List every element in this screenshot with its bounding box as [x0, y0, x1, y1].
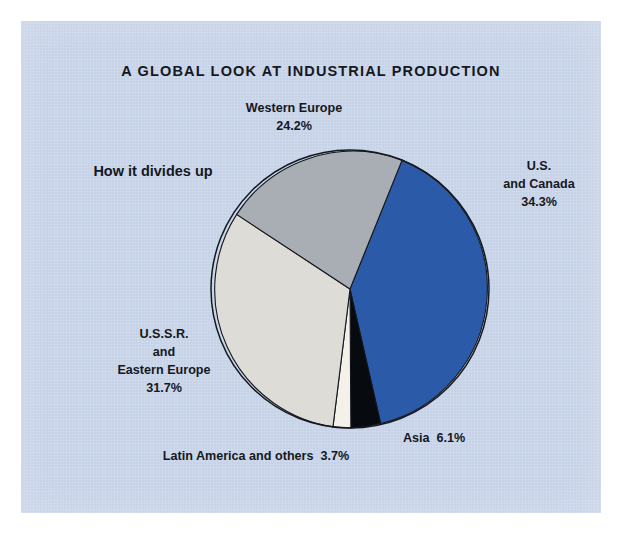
- slice-label-latin-america-and-others: Latin America and others 3.7%: [131, 448, 381, 466]
- figure-canvas: A GLOBAL LOOK AT INDUSTRIAL PRODUCTION H…: [0, 0, 624, 550]
- slice-label-ussr-and-eastern-europe: U.S.S.R. and Eastern Europe 31.7%: [79, 326, 249, 398]
- slice-label-asia: Asia 6.1%: [403, 430, 523, 448]
- pie-slices: [215, 151, 488, 428]
- slice-label-western-europe: Western Europe 24.2%: [209, 100, 379, 136]
- chart-panel: A GLOBAL LOOK AT INDUSTRIAL PRODUCTION H…: [21, 21, 601, 513]
- slice-label-us-and-canada: U.S. and Canada 34.3%: [479, 158, 599, 212]
